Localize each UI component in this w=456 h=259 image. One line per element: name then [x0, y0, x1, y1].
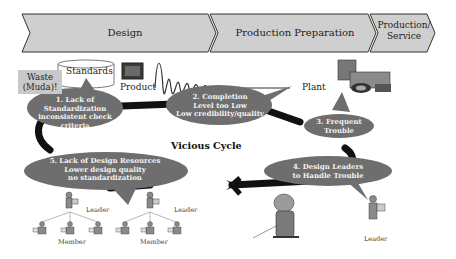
bubble-5-text: 5. Lack of Design Resources Lower design…	[40, 157, 170, 183]
waste-line1: Waste	[21, 72, 59, 82]
bubble-4-text: 4. Design Leaders to Handle Trouble	[278, 163, 378, 180]
member-mid-label: Member	[140, 238, 168, 246]
vicious-cycle-title: Vicious Cycle	[171, 140, 242, 151]
leader-person-icon	[66, 192, 385, 219]
bubble-1-text: 1. Lack of Standardization inconsistent …	[30, 96, 120, 130]
product-label: Product	[120, 82, 156, 92]
phase-production-service-line1: Production/	[375, 20, 433, 31]
stressed-manager-icon	[253, 194, 299, 238]
bubble-3-text: 3. Frequent Trouble	[309, 118, 369, 135]
standards-label: Standards	[66, 66, 113, 76]
bubble-2-line: Low credibility/quality	[170, 110, 270, 119]
member-person-icons	[33, 222, 181, 235]
leader-left-label: Leader	[86, 206, 109, 214]
leader-right-label: Leader	[364, 235, 387, 243]
plant-factory-icon	[338, 60, 391, 93]
bubble-3-line: Trouble	[309, 127, 369, 136]
member-left-label: Member	[58, 238, 86, 246]
phase-production-service-line2: Service	[375, 31, 433, 42]
phase-production-service-label: Production/ Service	[375, 20, 433, 42]
leader-mid-label: Leader	[174, 206, 197, 214]
bubble-4-line: to Handle Trouble	[278, 172, 378, 181]
plant-label: Plant	[302, 82, 326, 92]
waste-line2: (Muda)!	[21, 82, 59, 92]
phase-production-preparation-label: Production Preparation	[225, 27, 365, 38]
phase-design-label: Design	[80, 27, 170, 38]
bubble-2-text: 2. Completion Level too Low Low credibil…	[170, 93, 270, 119]
bubble-5-line: no standardization	[40, 174, 170, 183]
waste-callout: Waste (Muda)!	[18, 70, 62, 94]
bubble-1-line: inconsistent check criteria	[30, 113, 120, 130]
